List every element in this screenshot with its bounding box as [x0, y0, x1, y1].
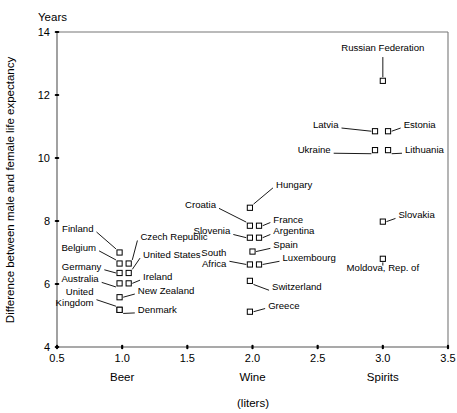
data-point-marker [117, 281, 122, 286]
data-point-marker [117, 307, 122, 312]
data-point-label: Czech Republic [140, 231, 207, 242]
data-point-marker [256, 223, 261, 228]
leader-line [392, 153, 402, 154]
data-point-marker [117, 295, 122, 300]
data-point-marker [247, 235, 252, 240]
data-point-marker [247, 309, 252, 314]
data-point-label: SouthAfrica [201, 247, 227, 269]
data-point-marker [247, 262, 252, 267]
data-point-marker [247, 205, 252, 210]
data-point-label: Ireland [143, 271, 172, 282]
x-tick-label: 1.5 [180, 352, 195, 364]
data-point-marker [256, 235, 261, 240]
data-point-label: Lithuania [405, 144, 445, 155]
x-tick-label: 1.0 [115, 352, 130, 364]
data-point-label: United States [143, 249, 201, 260]
data-point-marker [247, 223, 252, 228]
y-tick-label: 4 [44, 341, 50, 353]
leader-line [123, 313, 135, 314]
data-point-label: Australia [61, 273, 99, 284]
x-tick-label: 0.5 [49, 352, 64, 364]
y-tick-label: 10 [38, 152, 50, 164]
x-tick-label: 2.5 [310, 352, 325, 364]
data-point-label: New Zealand [138, 285, 195, 296]
data-point-marker [250, 249, 255, 254]
data-point-label: Spain [273, 239, 298, 250]
data-point-label: Denmark [138, 304, 177, 315]
x-tick-label: 3.5 [440, 352, 455, 364]
data-point-label: Finland [62, 223, 93, 234]
data-point-label: Switzerland [272, 281, 322, 292]
category-label: Beer [110, 371, 134, 383]
data-point-marker [117, 250, 122, 255]
data-point-marker [380, 78, 385, 83]
data-point-marker [372, 148, 377, 153]
category-label: Wine [239, 371, 265, 383]
y-tick-label: 14 [38, 26, 50, 38]
data-point-label: Moldova, Rep. of [347, 262, 420, 273]
data-point-label: France [273, 214, 303, 225]
y-axis-unit-label: Years [38, 11, 67, 23]
data-point-marker [385, 129, 390, 134]
data-point-marker [256, 262, 261, 267]
data-point-label: Hungary [276, 179, 312, 190]
y-tick-label: 6 [44, 278, 50, 290]
data-point-label: Slovakia [398, 209, 435, 220]
data-point-label: Estonia [404, 119, 437, 130]
data-point-label: Luxembourg [282, 252, 335, 263]
y-tick-label: 12 [38, 89, 50, 101]
data-point-marker [126, 270, 131, 275]
x-tick-label: 3.0 [375, 352, 390, 364]
y-axis-title: Difference between male and female life … [4, 57, 16, 324]
leader-line [334, 153, 372, 154]
data-point-marker [385, 148, 390, 153]
data-point-label: Russian Federation [341, 42, 424, 53]
data-point-marker [247, 278, 252, 283]
data-point-label: Ukraine [298, 144, 331, 155]
scatter-chart: 0.51.01.52.02.53.03.5 468101214 Russian … [0, 0, 457, 413]
chart-canvas: 0.51.01.52.02.53.03.5 468101214 Russian … [0, 0, 457, 413]
data-point-label: Greece [268, 300, 299, 311]
data-point-marker [117, 261, 122, 266]
data-point-marker [126, 261, 131, 266]
data-point-marker [380, 219, 385, 224]
x-axis-unit-label: (liters) [237, 397, 269, 409]
data-point-label: Croatia [185, 199, 217, 210]
data-point-label: Belgium [61, 242, 96, 253]
data-point-marker [117, 270, 122, 275]
y-tick-label: 8 [44, 215, 50, 227]
data-point-label: Argentina [273, 225, 315, 236]
data-point-marker [126, 281, 131, 286]
x-tick-label: 2.0 [245, 352, 260, 364]
data-point-marker [372, 129, 377, 134]
data-point-marker [380, 256, 385, 261]
data-point-label: Germany [62, 261, 102, 272]
data-point-label: Latvia [313, 119, 339, 130]
category-label: Spirits [367, 371, 399, 383]
